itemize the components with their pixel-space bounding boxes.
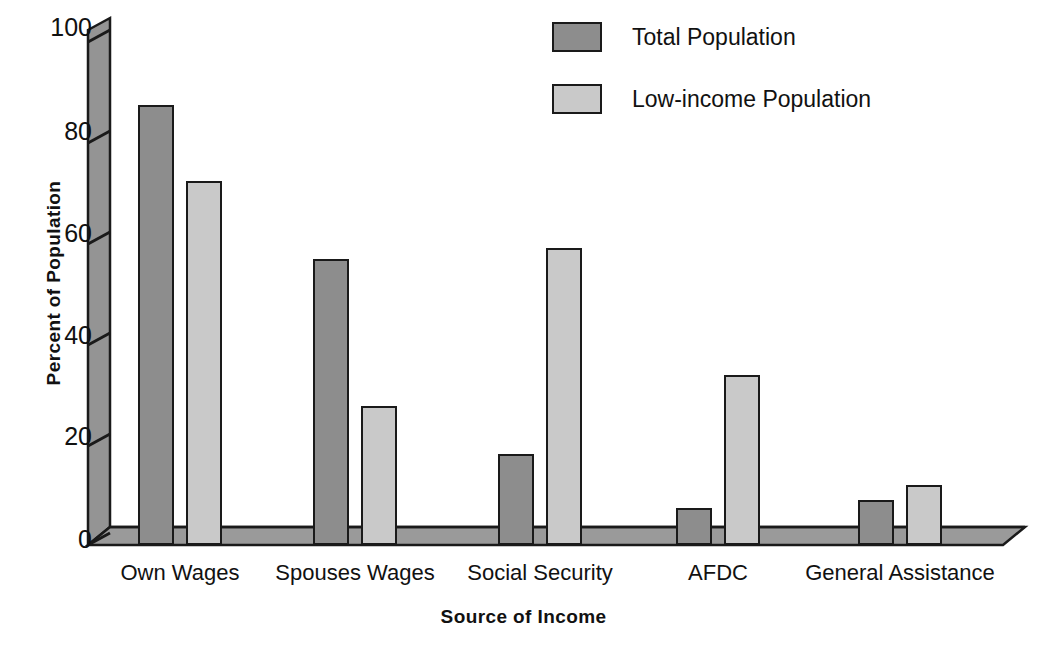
legend-swatch-icon: [552, 84, 602, 114]
x-axis-title: Source of Income: [0, 606, 1047, 628]
legend-label: Low-income Population: [632, 86, 871, 113]
bar-afdc-low-income-population: [724, 375, 760, 546]
bar-own-wages-low-income-population: [186, 181, 222, 545]
bar-spouses-wages-low-income-population: [361, 406, 397, 545]
chart-page: Percent of Population 100 80 60 40 20 0 …: [0, 0, 1047, 671]
bar-afdc-total-population: [676, 508, 712, 545]
x-tick-afdc: AFDC: [688, 560, 748, 586]
y-axis-tick-labels: 100 80 60 40 20 0: [30, 0, 92, 600]
bar-spouses-wages-total-population: [313, 259, 349, 545]
bar-general-assistance-low-income-population: [906, 485, 942, 545]
y-tick-40: 40: [32, 323, 92, 348]
bar-general-assistance-total-population: [858, 500, 894, 545]
bar-social-security-low-income-population: [546, 248, 582, 545]
legend-item-total-population: Total Population: [552, 22, 871, 52]
legend-label: Total Population: [632, 24, 796, 51]
x-tick-social-security: Social Security: [467, 560, 613, 586]
chart-legend: Total PopulationLow-income Population: [552, 22, 871, 146]
x-tick-own-wages: Own Wages: [120, 560, 239, 586]
y-tick-80: 80: [32, 119, 92, 144]
legend-item-low-income-population: Low-income Population: [552, 84, 871, 114]
y-tick-60: 60: [32, 221, 92, 246]
x-tick-general-assistance: General Assistance: [805, 560, 995, 586]
y-tick-20: 20: [32, 424, 92, 449]
y-tick-0: 0: [32, 527, 92, 552]
bar-social-security-total-population: [498, 454, 534, 545]
x-tick-spouses-wages: Spouses Wages: [275, 560, 434, 586]
legend-swatch-icon: [552, 22, 602, 52]
bar-own-wages-total-population: [138, 105, 174, 545]
y-tick-100: 100: [32, 15, 92, 40]
